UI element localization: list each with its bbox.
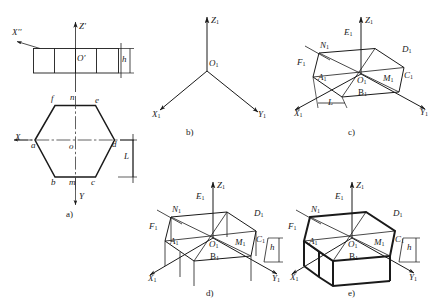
panel-e-x-label: X1 — [290, 273, 299, 282]
panel-c-point-M-label: M1 — [383, 74, 394, 83]
panel-e-point-E-label: E1 — [335, 192, 344, 201]
panel-a-x-axis-label: X'' — [12, 28, 21, 37]
hex-vertex-d-label: d — [112, 140, 117, 149]
top-view-hexagon — [35, 106, 115, 178]
figure-canvas: Z' X'' O' h X Y f n e a o d b m c L a) Z… — [0, 0, 435, 308]
panel-c-dim-L-label: L — [328, 98, 333, 107]
hex-vertex-n-label: n — [70, 93, 75, 102]
panel-c-y-label: Y1 — [420, 108, 428, 117]
panel-d-y-label: Y1 — [272, 274, 280, 283]
panel-e-x-axis — [292, 238, 352, 274]
panel-d-x-axis — [150, 238, 213, 275]
panel-d-point-D-label: D1 — [254, 209, 264, 218]
panel-e-origin-label: O1 — [348, 240, 358, 249]
panel-e-point-F-label: F1 — [288, 222, 297, 231]
hex-vertex-a-label: a — [31, 141, 36, 150]
panel-d-origin-label: O1 — [209, 240, 219, 249]
panel-c-x-label: X1 — [294, 109, 303, 118]
panel-a-z-axis-label: Z' — [79, 22, 86, 31]
hex-vertex-c-label: c — [91, 178, 95, 187]
panel-e-z-label: Z1 — [356, 181, 364, 190]
hex-vertex-e-label: e — [95, 96, 99, 105]
panel-b-y-label: Y1 — [258, 110, 266, 119]
front-view-rect — [34, 49, 119, 74]
panel-d-caption: d) — [206, 289, 214, 298]
panel-e-point-M-label: M1 — [374, 238, 385, 247]
panel-c-point-F-label: F1 — [297, 58, 306, 67]
panel-b-x-axis — [160, 71, 207, 110]
panel-a-x-axis — [17, 42, 40, 49]
panel-a-y-label: Y — [79, 192, 84, 201]
panel-c-point-N-label: N1 — [320, 41, 329, 50]
panel-d-point-F-label: F1 — [149, 222, 158, 231]
panel-b-caption: b) — [186, 128, 194, 137]
panel-e-point-B-label: B1 — [349, 252, 358, 261]
hex-center-o-label: o — [69, 142, 74, 151]
panel-d-z-label: Z1 — [217, 181, 225, 190]
panel-c-point-A-label: A1 — [318, 73, 327, 82]
hex-vertex-b-label: b — [51, 178, 56, 187]
hex-vertex-f-label: f — [51, 94, 54, 103]
panel-c-caption: c) — [348, 128, 355, 137]
panel-d-point-C-label: C1 — [256, 235, 265, 244]
panel-a-caption: a) — [66, 210, 73, 219]
hex-vertex-m-label: m — [69, 178, 76, 187]
panel-c-point-B-label: B1 — [358, 88, 367, 97]
panel-c-point-D-label: D1 — [402, 45, 412, 54]
figure-linework — [0, 0, 435, 308]
panel-a-dim-L-label: L — [124, 152, 129, 161]
panel-c-origin-label: O1 — [357, 76, 367, 85]
panel-e-point-C-label: C1 — [395, 235, 404, 244]
panel-a-front-origin-label: O' — [77, 54, 85, 63]
panel-c-z-label: Z1 — [365, 16, 373, 25]
panel-a-dim-h-label: h — [122, 55, 127, 64]
panel-e-point-A-label: A1 — [309, 237, 318, 246]
panel-d-point-B-label: B1 — [210, 252, 219, 261]
panel-e-y-label: Y1 — [409, 273, 417, 282]
panel-b-y-axis — [207, 71, 258, 112]
panel-e-bottom-edges — [304, 266, 390, 286]
panel-c-point-C-label: C1 — [404, 71, 413, 80]
panel-e-point-D-label: D1 — [393, 209, 403, 218]
panel-d-point-A-label: A1 — [170, 237, 179, 246]
panel-e-point-N-label: N1 — [311, 205, 320, 214]
panel-b-x-label: X1 — [152, 110, 161, 119]
panel-d-linework — [150, 182, 283, 286]
panel-c-dim-ext-2 — [342, 97, 347, 108]
panel-d-point-M-label: M1 — [235, 238, 246, 247]
panel-c-point-E-label: E1 — [344, 28, 353, 37]
panel-a-x-label: X — [15, 133, 21, 142]
panel-b-origin-label: O1 — [209, 59, 219, 68]
panel-d-point-E-label: E1 — [196, 192, 205, 201]
panel-e-dim-h-label: h — [407, 243, 412, 252]
panel-b-z-label: Z1 — [211, 16, 219, 25]
panel-d-dim-h-label: h — [270, 243, 275, 252]
panel-d-point-N-label: N1 — [172, 205, 181, 214]
panel-e-caption: e) — [348, 289, 355, 298]
panel-d-x-label: X1 — [148, 274, 157, 283]
